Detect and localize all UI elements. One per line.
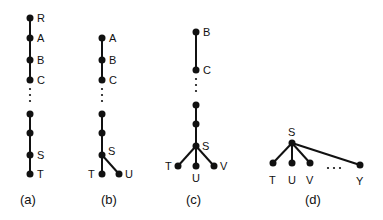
ellipsis-dot: [29, 94, 31, 96]
panel-a-labels: R A B C S T (a): [20, 12, 45, 207]
caption-d: (d): [305, 192, 321, 207]
label-c: C: [37, 74, 45, 86]
label-y: Y: [356, 175, 364, 187]
node-b: [99, 57, 106, 64]
node-s: [193, 143, 200, 150]
caption-b: (b): [101, 192, 117, 207]
node-c: [193, 67, 200, 74]
node-y: [357, 162, 364, 169]
label-u: U: [192, 172, 200, 184]
ellipsis-dot: [195, 84, 197, 86]
node: [27, 111, 34, 118]
ellipsis-dot: [29, 88, 31, 90]
caption-c: (c): [186, 192, 201, 207]
node-a: [27, 35, 34, 42]
node-u: [193, 163, 200, 170]
ellipsis-dot: [29, 100, 31, 102]
ellipsis-dot: [327, 167, 329, 169]
node-s: [27, 152, 34, 159]
ellipsis-dot: [101, 100, 103, 102]
label-r: R: [37, 12, 45, 24]
ellipsis-dot: [195, 78, 197, 80]
panel-d-nodes: [270, 140, 364, 170]
label-t: T: [165, 160, 172, 172]
label-t: T: [269, 174, 276, 186]
caption-a: (a): [20, 192, 36, 207]
label-b: B: [109, 54, 116, 66]
label-s: S: [108, 145, 115, 157]
node-b: [193, 29, 200, 36]
label-s: S: [288, 126, 295, 138]
tree-diagram: R A B C S T (a) A B C S T U (b): [0, 0, 383, 220]
node-s: [289, 140, 296, 147]
node: [193, 121, 200, 128]
node-c: [99, 77, 106, 84]
label-a: A: [109, 32, 117, 44]
label-t: T: [37, 168, 44, 180]
node-r: [27, 15, 34, 22]
label-b: B: [37, 54, 44, 66]
label-u: U: [125, 168, 133, 180]
node-t: [99, 171, 106, 178]
node-c: [27, 77, 34, 84]
node: [27, 130, 34, 137]
label-a: A: [37, 32, 45, 44]
label-u: U: [288, 174, 296, 186]
label-c: C: [109, 74, 117, 86]
node-v: [307, 160, 314, 167]
ellipsis-dot: [101, 88, 103, 90]
node-s: [99, 152, 106, 159]
label-s: S: [37, 149, 44, 161]
node-u: [116, 171, 123, 178]
label-v: V: [306, 174, 314, 186]
edge: [273, 143, 292, 163]
node-t: [175, 163, 182, 170]
node: [193, 102, 200, 109]
label-s: S: [202, 140, 209, 152]
node-a: [99, 35, 106, 42]
panel-b-labels: A B C S T U (b): [88, 32, 133, 207]
node: [99, 130, 106, 137]
node-b: [27, 57, 34, 64]
node-u: [289, 160, 296, 167]
label-v: V: [220, 160, 228, 172]
node: [99, 111, 106, 118]
ellipsis-dot: [333, 167, 335, 169]
ellipsis-dot: [195, 90, 197, 92]
label-t: T: [88, 168, 95, 180]
panel-d-labels: S T U V Y (d): [269, 126, 364, 207]
ellipsis-dot: [101, 94, 103, 96]
label-b: B: [203, 26, 210, 38]
ellipsis-dot: [339, 167, 341, 169]
edge: [178, 146, 196, 166]
node-t: [27, 171, 34, 178]
node-t: [270, 160, 277, 167]
panel-a-nodes: [27, 15, 34, 178]
label-c: C: [203, 64, 211, 76]
edge: [102, 155, 119, 174]
node-v: [211, 163, 218, 170]
panel-d: [273, 143, 360, 165]
